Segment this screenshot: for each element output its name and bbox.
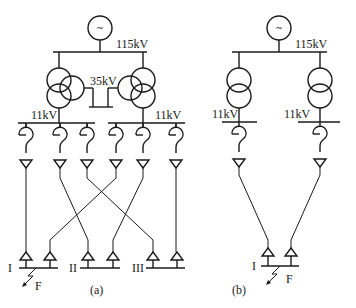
fault-arrow-icon-b <box>266 266 280 285</box>
cables-a <box>26 168 176 252</box>
diagram-a: ~ 115kV 35kV <box>8 16 185 297</box>
power-system-diagram: ~ 115kV 35kV <box>0 0 356 308</box>
mv-bus-label-a: 35kV <box>90 74 117 88</box>
fault-arrow-icon-a <box>22 268 36 287</box>
load-bus-label-I-a: I <box>8 261 12 275</box>
receiving-breakers-b <box>262 248 297 266</box>
hv-bus-label-a: 115kV <box>116 37 149 51</box>
svg-text:~: ~ <box>275 23 283 33</box>
receiving-breakers-a <box>20 252 183 268</box>
transformer-right-b <box>308 52 332 122</box>
feeders-b <box>232 122 327 167</box>
hv-bus-label-b: 115kV <box>295 37 328 51</box>
feeders-a <box>19 123 183 168</box>
caption-a: (a) <box>90 283 103 297</box>
lv-bus-left-label-a: 11kV <box>31 108 58 122</box>
load-bus-label-I-b: I <box>252 259 256 273</box>
caption-b: (b) <box>232 283 246 297</box>
lv-bus-left-label-b: 11kV <box>212 107 239 121</box>
fault-label-a: F <box>35 279 42 293</box>
lv-bus-right-label-b: 11kV <box>284 107 311 121</box>
diagram-b: ~ 115kV 11kV 11kV <box>212 16 340 297</box>
load-bus-label-II-a: II <box>69 261 77 275</box>
generator-b: ~ <box>267 16 291 52</box>
generator-a: ~ <box>88 16 112 52</box>
fault-label-b: F <box>286 272 293 286</box>
svg-text:~: ~ <box>96 23 104 33</box>
lv-bus-right-label-a: 11kV <box>155 108 182 122</box>
load-bus-label-III-a: III <box>132 261 144 275</box>
cables-b <box>239 167 320 248</box>
